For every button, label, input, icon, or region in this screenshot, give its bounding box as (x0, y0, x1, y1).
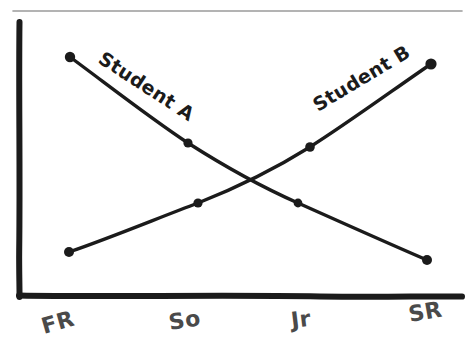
chart-canvas: Student A Student B FR So Jr SR (0, 0, 476, 360)
handdrawn-line-chart: Student A Student B FR So Jr SR (0, 0, 476, 360)
x-tick-label-sr: SR (407, 296, 445, 326)
data-point-student-b-so[interactable] (193, 198, 202, 207)
x-tick-label-jr: Jr (288, 306, 313, 334)
data-point-student-a-sr[interactable] (422, 255, 432, 265)
data-point-student-b-fr[interactable] (64, 247, 74, 257)
series-label-student-b: Student B (309, 40, 414, 115)
data-point-student-a-fr[interactable] (65, 52, 75, 62)
data-point-student-a-jr[interactable] (294, 199, 303, 208)
data-point-student-b-sr[interactable] (425, 58, 436, 69)
x-axis-line (19, 296, 462, 297)
x-tick-label-so: So (167, 305, 202, 335)
x-tick-label-fr: FR (38, 306, 77, 339)
data-point-student-a-so[interactable] (183, 138, 192, 147)
series-student-b-line (69, 64, 431, 252)
series-student-a-line (70, 57, 427, 260)
series-student-b[interactable] (64, 58, 437, 257)
data-point-student-b-jr[interactable] (305, 142, 315, 152)
